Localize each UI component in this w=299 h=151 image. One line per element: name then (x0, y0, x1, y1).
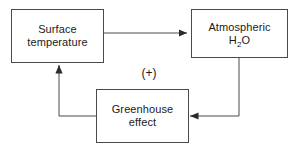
node-atmospheric-h2o: Atmospheric H2O (191, 9, 288, 58)
arrow-greenhouse-effect-to-surface-temperature (59, 65, 96, 116)
node-surface-temperature-label-line-1: Surface (24, 23, 90, 36)
node-surface-temperature: Surface temperature (11, 9, 104, 63)
node-greenhouse-effect-label: Greenhouse effect (109, 103, 177, 129)
formula-prefix: H (229, 34, 237, 46)
node-surface-temperature-label-line-2: temperature (24, 36, 90, 49)
node-surface-temperature-label: Surface temperature (24, 23, 90, 49)
node-atmospheric-h2o-label: Atmospheric H2O (205, 21, 273, 47)
node-atmospheric-h2o-label-line-1: Atmospheric (205, 21, 273, 34)
node-greenhouse-effect: Greenhouse effect (96, 89, 189, 143)
feedback-sign-label: (+) (131, 66, 167, 81)
node-greenhouse-effect-label-line-1: Greenhouse (109, 103, 177, 116)
node-atmospheric-h2o-formula: H2O (205, 34, 273, 47)
node-greenhouse-effect-label-line-2: effect (109, 116, 177, 129)
formula-suffix: O (241, 34, 250, 46)
feedback-loop-diagram: Surface temperature Atmospheric H2O Gree… (0, 0, 299, 151)
arrow-atmospheric-h2o-to-greenhouse-effect (190, 58, 239, 116)
formula-subscript: 2 (237, 40, 242, 49)
